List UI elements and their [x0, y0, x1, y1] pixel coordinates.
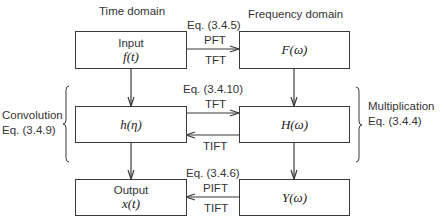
impulse-response-function: h(η) — [120, 117, 142, 133]
left-brace-icon — [63, 86, 69, 162]
middle-eq-label: Eq. (3.4.10) — [183, 84, 243, 96]
impulse-response-box: h(η) — [75, 106, 187, 143]
output-box: Output x(t) — [75, 179, 187, 216]
input-function: f(t) — [123, 50, 139, 64]
freq-output-function: Y(ω) — [282, 190, 307, 206]
top-below-label: TFT — [205, 55, 226, 67]
transfer-function: H(ω) — [281, 117, 308, 133]
multiplication-label: Multiplication — [368, 101, 434, 113]
input-box: Input f(t) — [75, 31, 187, 69]
middle-below-label: TIFT — [203, 141, 227, 153]
input-label: Input — [118, 37, 144, 50]
convolution-label: Convolution — [2, 110, 63, 122]
top-above-label: PFT — [204, 35, 226, 47]
bottom-above-label: PIFT — [203, 183, 228, 195]
bottom-below-label: TIFT — [204, 203, 228, 215]
convolution-eq-label: Eq. (3.4.9) — [2, 125, 56, 137]
frequency-domain-header: Frequency domain — [248, 9, 343, 21]
top-eq-label: Eq. (3.4.5) — [187, 20, 241, 32]
freq-output-box: Y(ω) — [239, 179, 350, 216]
multiplication-eq-label: Eq. (3.4.4) — [368, 116, 422, 128]
bottom-eq-label: Eq. (3.4.6) — [186, 168, 240, 180]
time-domain-header: Time domain — [99, 6, 165, 18]
transfer-function-box: H(ω) — [239, 106, 350, 143]
freq-input-box: F(ω) — [239, 31, 350, 69]
output-function: x(t) — [122, 197, 140, 211]
freq-input-function: F(ω) — [282, 42, 308, 58]
middle-above-label: TFT — [205, 99, 226, 111]
right-brace-icon — [356, 87, 362, 162]
